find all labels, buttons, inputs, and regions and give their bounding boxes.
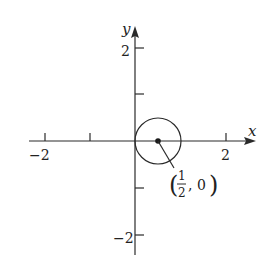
diagram-canvas: y x 2 −2 −2 2 ( 1 2 , 0 )	[0, 0, 268, 266]
y-tick-label-neg2: −2	[113, 230, 134, 246]
label-open-paren: (	[169, 171, 178, 199]
y-tick-label-pos2: 2	[121, 43, 130, 59]
x-tick-label-pos2: 2	[221, 147, 230, 163]
label-fraction-numerator: 1	[178, 169, 186, 183]
label-rest: , 0	[188, 177, 206, 193]
y-axis-label: y	[121, 20, 131, 38]
label-fraction-denominator: 2	[178, 186, 186, 200]
center-point-label: ( 1 2 , 0 )	[169, 169, 218, 200]
x-axis-label: x	[248, 122, 257, 140]
x-tick-label-neg2: −2	[29, 147, 50, 163]
x-axis	[29, 133, 256, 145]
label-close-paren: )	[209, 171, 218, 199]
